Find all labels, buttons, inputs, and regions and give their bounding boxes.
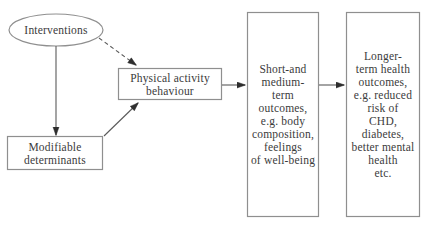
short-medium-outcomes-box — [248, 13, 319, 217]
arrow-dashed-interventions-to-physical-activity — [99, 38, 136, 65]
modifiable-determinants-box — [8, 137, 103, 170]
arrow-determinants-to-physical-activity — [104, 103, 138, 136]
interventions-ellipse — [9, 14, 103, 46]
flowchart-diagram: Interventions Physical activity behaviou… — [0, 0, 424, 226]
longer-term-outcomes-box — [347, 13, 420, 217]
diagram-canvas — [0, 0, 424, 226]
physical-activity-box — [119, 69, 222, 100]
